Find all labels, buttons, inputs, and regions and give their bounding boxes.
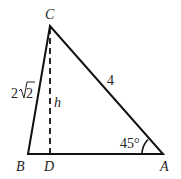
side-bc-label: 2 2 — [11, 82, 35, 101]
side-ca-label: 4 — [107, 73, 114, 88]
triangle-abc — [28, 26, 163, 154]
vertex-label-c: C — [45, 7, 55, 22]
angle-a-label: 45° — [120, 136, 140, 151]
svg-text:2: 2 — [26, 86, 33, 101]
angle-a-arc — [142, 140, 148, 155]
triangle-diagram: C B D A 4 h 45° 2 2 — [0, 0, 181, 179]
vertex-label-a: A — [159, 159, 169, 174]
vertex-label-b: B — [16, 159, 25, 174]
svg-text:2: 2 — [11, 86, 18, 101]
vertex-label-d: D — [43, 159, 54, 174]
altitude-label: h — [54, 95, 61, 110]
